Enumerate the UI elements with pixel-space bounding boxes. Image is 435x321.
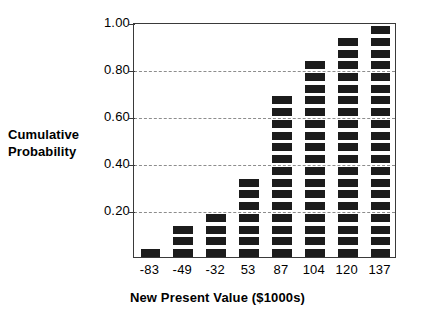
- bar-segment: [371, 50, 391, 58]
- bar-segment: [338, 249, 358, 257]
- bar-segment: [338, 237, 358, 245]
- bar-segment: [173, 237, 193, 245]
- bar-segment: [305, 143, 325, 151]
- x-tick-label: 104: [297, 262, 330, 277]
- bar-segment: [272, 143, 292, 151]
- x-tick-label: -49: [166, 262, 199, 277]
- bar-segment: [371, 155, 391, 163]
- bar-segment: [371, 108, 391, 116]
- bar: [371, 22, 391, 257]
- bar-segment: [371, 120, 391, 128]
- bar-segment: [305, 73, 325, 81]
- bar-segment: [206, 214, 226, 222]
- bar-segment: [371, 226, 391, 234]
- bar-segment: [371, 96, 391, 104]
- bar-segment: [305, 120, 325, 128]
- bar-segment: [272, 132, 292, 140]
- bar-segment: [272, 96, 292, 104]
- bar: [141, 245, 161, 257]
- bar-segment: [206, 237, 226, 245]
- bar-segment: [338, 167, 358, 175]
- y-axis-tick-labels: 0.200.400.600.801.00: [86, 0, 130, 321]
- bar-segment: [338, 143, 358, 151]
- bar-segment: [272, 167, 292, 175]
- bar-segment: [305, 108, 325, 116]
- bar-segment: [371, 214, 391, 222]
- bar-segment: [239, 226, 259, 234]
- bar-segment: [338, 96, 358, 104]
- bar-segment: [305, 237, 325, 245]
- bar: [305, 57, 325, 257]
- bar-segment: [305, 167, 325, 175]
- x-tick-label: 87: [265, 262, 298, 277]
- bar-segment: [371, 190, 391, 198]
- bar-segment: [272, 214, 292, 222]
- x-axis-label: New Present Value ($1000s): [0, 290, 435, 305]
- bar-segment: [206, 249, 226, 257]
- bar-segment: [305, 226, 325, 234]
- plot-inner: [134, 24, 395, 257]
- bar-segment: [338, 85, 358, 93]
- bar-segment: [338, 202, 358, 210]
- bar-segment: [272, 249, 292, 257]
- bar-segment: [272, 226, 292, 234]
- bar-segment: [338, 73, 358, 81]
- x-tick-label: 137: [363, 262, 396, 277]
- y-tick-label: 0.20: [88, 204, 130, 217]
- bar-segment: [239, 202, 259, 210]
- bar: [206, 210, 226, 257]
- bar-segment: [305, 132, 325, 140]
- bar-segment: [239, 237, 259, 245]
- bar-segment: [173, 249, 193, 257]
- bar-segment: [305, 85, 325, 93]
- bar-segment: [371, 132, 391, 140]
- bar-segment: [338, 61, 358, 69]
- bar-segment: [141, 249, 161, 257]
- bar-segment: [371, 237, 391, 245]
- y-tick-label: 0.40: [88, 157, 130, 170]
- bar-segment: [305, 179, 325, 187]
- bar-segment: [338, 214, 358, 222]
- bar-segment: [371, 26, 391, 34]
- bar-segment: [371, 202, 391, 210]
- bar-segment: [338, 120, 358, 128]
- bar-segment: [371, 73, 391, 81]
- bar-segment: [305, 202, 325, 210]
- bar-segment: [338, 50, 358, 58]
- bar-segment: [305, 214, 325, 222]
- x-axis-tick-labels: -83-49-325387104120137: [133, 262, 396, 282]
- bar-segment: [371, 85, 391, 93]
- bar-segment: [272, 179, 292, 187]
- bar-segment: [305, 190, 325, 198]
- bar-segment: [305, 61, 325, 69]
- bar-segment: [239, 179, 259, 187]
- bar-segment: [305, 96, 325, 104]
- bar: [338, 34, 358, 257]
- bar-segment: [371, 143, 391, 151]
- bar-segment: [272, 120, 292, 128]
- bar-segment: [338, 132, 358, 140]
- bar-segment: [338, 38, 358, 46]
- bar-segment: [239, 214, 259, 222]
- bar-segment: [206, 226, 226, 234]
- bar-segment: [371, 249, 391, 257]
- bar-segment: [338, 179, 358, 187]
- bar-segment: [305, 155, 325, 163]
- x-tick-label: -32: [199, 262, 232, 277]
- x-tick-label: 120: [330, 262, 363, 277]
- bar: [173, 222, 193, 257]
- bar-segment: [239, 249, 259, 257]
- x-tick-label: -83: [133, 262, 166, 277]
- bar-segment: [371, 61, 391, 69]
- x-tick-label: 53: [232, 262, 265, 277]
- chart-figure: Cumulative Probability 0.200.400.600.801…: [0, 0, 435, 321]
- bar-segment: [272, 155, 292, 163]
- bar: [239, 175, 259, 257]
- bar-segment: [338, 108, 358, 116]
- bar-segment: [305, 249, 325, 257]
- bar-segment: [371, 179, 391, 187]
- plot-area: [133, 23, 396, 258]
- y-tick-label: 0.80: [88, 63, 130, 76]
- bar-segment: [239, 190, 259, 198]
- bars-group: [134, 24, 395, 257]
